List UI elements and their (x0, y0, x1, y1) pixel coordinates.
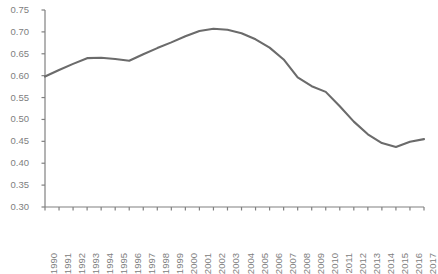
y-axis-tick-labels: 0.300.350.400.450.500.550.600.650.700.75 (0, 0, 38, 215)
x-tick-label: 2005 (260, 253, 270, 274)
y-tick-label: 0.35 (0, 180, 38, 190)
x-tick-label: 2000 (189, 253, 199, 274)
x-tick-label: 2013 (372, 253, 382, 274)
x-tick-label: 1992 (77, 253, 87, 274)
y-tick-label: 0.40 (0, 158, 38, 168)
y-tick-label: 0.70 (0, 27, 38, 37)
x-tick-label: 1990 (49, 253, 59, 274)
x-tick-label: 2004 (246, 253, 256, 274)
x-tick-label: 2006 (274, 253, 284, 274)
x-tick-label: 1995 (119, 253, 129, 274)
x-tick-label: 2007 (288, 253, 298, 274)
data-series-line (45, 29, 424, 147)
x-tick-label: 2017 (428, 253, 438, 274)
x-tick-label: 1999 (175, 253, 185, 274)
y-tick-label: 0.45 (0, 136, 38, 146)
x-axis-tick-labels: 1990199119921993199419951996199719981999… (0, 209, 430, 265)
x-tick-label: 2016 (414, 253, 424, 274)
x-tick-label: 1994 (105, 253, 115, 274)
x-tick-label: 2008 (302, 253, 312, 274)
x-tick-label: 2002 (217, 253, 227, 274)
x-tick-label: 2010 (330, 253, 340, 274)
x-tick-label: 1991 (63, 253, 73, 274)
x-tick-label: 2001 (203, 253, 213, 274)
x-tick-label: 2014 (386, 253, 396, 274)
y-tick-label: 0.50 (0, 114, 38, 124)
axes-group (45, 10, 424, 207)
y-tick-label: 0.55 (0, 93, 38, 103)
y-tick-label: 0.60 (0, 71, 38, 81)
x-tick-label: 2003 (231, 253, 241, 274)
x-tick-label: 2011 (344, 253, 354, 273)
x-tick-label: 1996 (133, 253, 143, 274)
y-tick-label: 0.65 (0, 49, 38, 59)
x-tick-label: 2012 (358, 253, 368, 274)
x-tick-label: 1998 (161, 253, 171, 274)
y-tick-label: 0.75 (0, 5, 38, 15)
x-tick-label: 1993 (91, 253, 101, 274)
x-tick-label: 2015 (400, 253, 410, 274)
x-tick-label: 1997 (147, 253, 157, 274)
x-tick-label: 2009 (316, 253, 326, 274)
